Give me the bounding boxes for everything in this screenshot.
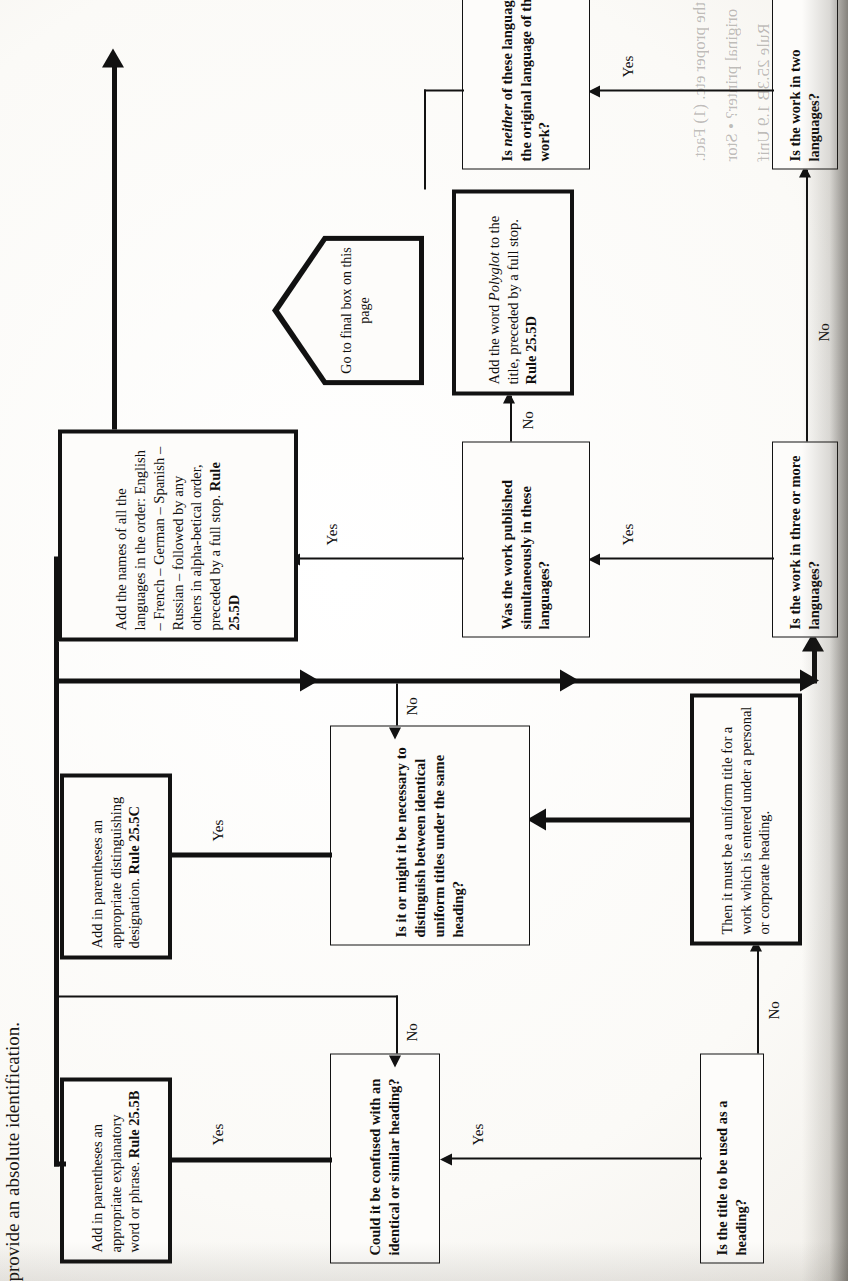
top-bus-stub [54,1161,66,1166]
show-through-text: the proper etc. (1) Fact. [690,1,710,161]
edge-label-no: No [766,1001,783,1019]
node-rule: Rule 25.5D [523,316,539,384]
node-is-title-heading[interactable]: Is the title to be used as a heading? [700,1053,764,1263]
edge-label-yes: Yes [324,523,341,545]
node-text: Could it be confused with an identical o… [366,1061,404,1255]
node-rule: Rule 25.5C [126,805,142,873]
node-text: Is neither of these languages the origin… [498,0,555,161]
edge-line [806,169,808,441]
edge-label-yes: Yes [210,819,227,841]
node-distinguish-identical-titles[interactable]: Is it or might it be necessary to distin… [330,725,530,945]
edge-label-yes: Yes [620,523,637,545]
top-bus-line [54,556,59,1166]
edge-line-thick [545,817,693,822]
arrowhead-down-icon [560,669,579,691]
edge-line [424,89,426,189]
edge-label-no: No [816,323,833,341]
node-published-simultaneously[interactable]: Was the work published simultaneously in… [462,441,590,637]
show-through-text: original printer? • Stor [722,8,742,161]
edge-line [452,1157,702,1159]
node-add-explanatory-word[interactable]: Add in parentheses an appropriate explan… [60,1077,172,1263]
scanned-page: provide an absolute identification. Is t… [0,0,848,1281]
show-through-text: Rule 25.3B 1.9 Unif [754,23,774,161]
edge-label-no: No [404,1023,421,1041]
node-rule: Rule 25.5B [126,1090,142,1158]
edge-line [58,995,398,997]
edge-label-no: No [404,697,421,715]
node-text: Is it or might it be necessary to distin… [392,733,467,937]
node-text: Was the work published simultaneously in… [498,449,555,629]
edge-line [424,89,464,91]
arrowhead-right-icon [102,48,124,67]
node-must-be-uniform-title[interactable]: Then it must be a uniform title for a wo… [690,693,802,945]
edge-line [396,995,398,1053]
edge-line-thick [170,1157,332,1162]
node-could-be-confused[interactable]: Could it be confused with an identical o… [330,1053,440,1263]
edge-label-yes: Yes [470,1123,487,1145]
edge-line [600,557,774,559]
node-work-three-or-more-languages[interactable]: Is the work in three or more languages? [772,441,838,637]
page-header-fragment: provide an absolute identification. [2,1021,24,1281]
node-text: Is the work in three or more languages? [786,449,824,629]
edge-label-yes: Yes [210,1123,227,1145]
edge-label-no: No [520,411,537,429]
connector-go-to-final-box[interactable]: Go to final box on this page [272,235,424,385]
edge-line [757,945,759,1053]
node-add-word-polyglot[interactable]: Add the word Polyglot to the title, prec… [452,189,574,395]
exit-right-line [112,59,117,429]
node-text: Then it must be a uniform title for a wo… [718,704,775,934]
edge-label-yes: Yes [620,55,637,77]
edge-line-thick [170,852,332,857]
node-text: Is the work in two languages? [786,0,824,161]
connector-text: Go to final box on this page [322,235,374,385]
arrowhead-left-icon [389,1055,401,1067]
flowchart-canvas: provide an absolute identification. Is t… [0,0,848,1281]
edge-line [396,683,398,725]
node-text: Add the word Polyglot to the title, prec… [486,215,521,384]
arrowhead-down-icon [300,669,319,691]
node-add-language-names[interactable]: Add the names of all the languages in th… [58,429,298,641]
arrowhead-up-icon [440,1153,452,1165]
main-bus-line [54,678,814,683]
edge-line [600,89,774,91]
node-add-distinguishing-designation[interactable]: Add in parentheses an appropriate distin… [60,773,172,959]
node-neither-original-language[interactable]: Is neither of these languages the origin… [462,0,590,169]
node-work-two-languages[interactable]: Is the work in two languages? [772,0,838,169]
arrowhead-left-icon [389,727,401,739]
edge-line [300,557,464,559]
node-text: Is the title to be used as a heading? [713,1061,751,1255]
